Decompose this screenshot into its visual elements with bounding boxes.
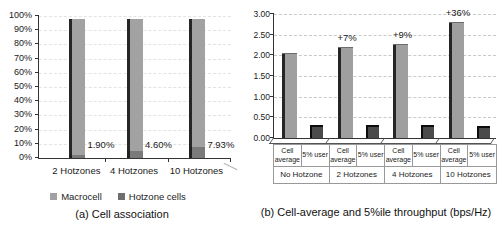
legend: Macrocell Hotzone cells xyxy=(0,191,236,202)
x-tick-mark xyxy=(168,158,169,162)
y-axis-label: 70% xyxy=(0,53,32,63)
bar-label-cell: 5% user xyxy=(468,145,496,167)
y-axis-label: 0.00 xyxy=(250,133,270,143)
bar-cell-average xyxy=(338,47,353,138)
cell-association-chart: 1.90%4.60%7.93% Macrocell Hotzone cells … xyxy=(0,0,250,235)
bar-side-shadow xyxy=(189,19,192,158)
throughput-chart: +7%+9%+36% Cell average5% userCell avera… xyxy=(250,0,502,235)
bar-side-shadow xyxy=(69,19,72,158)
annotation: +7% xyxy=(327,32,367,43)
bar-side-shadow xyxy=(449,22,452,138)
bar-top-edge xyxy=(310,125,323,127)
bar-side-shadow xyxy=(282,53,285,138)
bar-5pct-user xyxy=(310,125,323,138)
plot-area-b: +7%+9%+36% xyxy=(273,14,496,139)
annotation: +9% xyxy=(383,29,423,40)
y-axis-label: 30% xyxy=(0,109,32,119)
plot-area-a: 1.90%4.60%7.93% xyxy=(38,16,231,159)
group-label-row: No Hotzone2 Hotzones4 Hotzones10 Hotzone… xyxy=(274,167,496,183)
y-axis-label: 50% xyxy=(0,81,32,91)
legend-label-hotzone-cells: Hotzone cells xyxy=(129,191,186,202)
bar-label-cell: 5% user xyxy=(357,145,385,167)
bar-5pct-user xyxy=(366,125,379,138)
y-axis-label: 0.50 xyxy=(250,112,270,122)
y-axis-label: 2.00 xyxy=(250,50,270,60)
group-label-cell: 2 Hotzones xyxy=(330,167,386,183)
bar-label-cell: 5% user xyxy=(302,145,330,167)
y-axis-label: 80% xyxy=(0,38,32,48)
bar-label-row: Cell average5% userCell average5% userCe… xyxy=(274,145,496,167)
bar-side-shadow xyxy=(338,47,341,138)
data-label: 1.90% xyxy=(87,139,114,150)
bar-label-cell: 5% user xyxy=(413,145,441,167)
bar-5pct-user xyxy=(477,126,490,138)
floor xyxy=(269,138,495,144)
x-category-label: 10 Hotzones xyxy=(161,165,231,176)
bar-side-shadow xyxy=(127,19,130,158)
group-label-cell: 10 Hotzones xyxy=(441,167,497,183)
y-tick-mark xyxy=(35,157,39,158)
x-tick-mark xyxy=(105,158,106,162)
y-axis-label: 3.00 xyxy=(250,9,270,19)
macrocell-swatch-icon xyxy=(50,193,57,200)
caption-b: (b) Cell-average and 5%ile throughput (b… xyxy=(250,206,502,218)
hotzone-cells-swatch-icon xyxy=(118,193,125,200)
y-axis-label: 100% xyxy=(0,10,32,20)
legend-item-hotzone-cells: Hotzone cells xyxy=(118,191,186,202)
bar-5pct-user xyxy=(421,125,434,138)
legend-label-macrocell: Macrocell xyxy=(61,191,102,202)
stacked-bar xyxy=(127,19,143,158)
bar-top-edge xyxy=(282,53,297,54)
data-label: 4.60% xyxy=(145,139,172,150)
annotation: +36% xyxy=(438,7,478,18)
y-axis-label: 1.00 xyxy=(250,92,270,102)
stacked-bar xyxy=(69,19,85,158)
bar-label-cell: Cell average xyxy=(330,145,358,167)
bar-cell-average xyxy=(393,44,408,138)
bar-top-edge xyxy=(338,47,353,48)
x-tick-mark xyxy=(230,158,231,162)
category-table: Cell average5% userCell average5% userCe… xyxy=(273,144,497,184)
y-axis-label: 10% xyxy=(0,138,32,148)
bar-side-shadow xyxy=(393,44,396,138)
bar-top-edge xyxy=(477,126,490,128)
floor-separator xyxy=(380,138,385,143)
group-label-cell: No Hotzone xyxy=(274,167,330,183)
caption-a: (a) Cell association xyxy=(0,208,244,220)
bar-top-edge xyxy=(393,44,408,45)
y-axis-label: 2.50 xyxy=(250,30,270,40)
bar-top-edge xyxy=(449,22,464,23)
stacked-bar xyxy=(189,19,205,158)
y-axis-label: 60% xyxy=(0,67,32,77)
y-axis-label: 20% xyxy=(0,124,32,134)
bar-label-cell: Cell average xyxy=(274,145,302,167)
floor-separator xyxy=(325,138,330,143)
legend-item-macrocell: Macrocell xyxy=(50,191,102,202)
group-label-cell: 4 Hotzones xyxy=(385,167,441,183)
y-axis-label: 90% xyxy=(0,24,32,34)
gridline xyxy=(39,16,231,17)
bar-cell-average xyxy=(282,53,297,138)
data-label: 7.93% xyxy=(207,139,234,150)
floor-separator xyxy=(435,138,440,143)
bar-top-edge xyxy=(421,125,434,127)
y-axis-label: 1.50 xyxy=(250,71,270,81)
bar-cell-average xyxy=(449,22,464,138)
x-category-label: 4 Hotzones xyxy=(99,165,169,176)
bar-label-cell: Cell average xyxy=(441,145,469,167)
bar-label-cell: Cell average xyxy=(385,145,413,167)
y-axis-label: 40% xyxy=(0,95,32,105)
bar-top-edge xyxy=(366,125,379,127)
y-axis-label: 0% xyxy=(0,152,32,162)
